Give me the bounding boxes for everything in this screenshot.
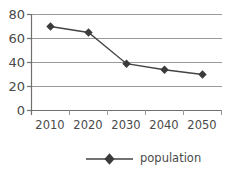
y-axis-ticks <box>27 15 31 111</box>
y-tick-label-20: 20 <box>0 80 25 93</box>
y-tick-label-0: 0 <box>0 104 25 117</box>
x-tick-label-2020: 2020 <box>68 120 108 132</box>
data-point-2010 <box>46 22 54 30</box>
data-point-2040 <box>160 66 168 74</box>
x-tick-label-2010: 2010 <box>30 120 70 132</box>
legend-diamond-marker <box>104 153 114 165</box>
y-tick-label-40: 40 <box>0 56 25 69</box>
data-point-2050 <box>198 70 206 78</box>
y-tick-label-80: 80 <box>0 8 25 21</box>
legend-label-population: population <box>140 153 201 165</box>
gridlines <box>31 15 222 87</box>
series-population <box>46 22 206 78</box>
series-markers <box>46 22 206 78</box>
chart-plot-area <box>0 0 233 172</box>
x-tick-label-2050: 2050 <box>182 120 222 132</box>
y-tick-label-60: 60 <box>0 32 25 45</box>
x-tick-label-2030: 2030 <box>106 120 146 132</box>
x-tick-label-2040: 2040 <box>144 120 184 132</box>
line-chart: 80 60 40 20 0 2010 2020 2030 2040 2050 p… <box>0 0 233 172</box>
